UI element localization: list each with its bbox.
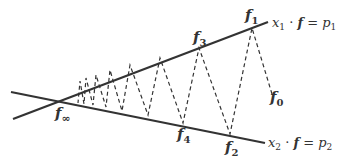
label-f0: f0 — [269, 88, 283, 108]
upper-constraint-line — [13, 22, 268, 119]
label-f-infinity: f∞ — [54, 104, 71, 125]
lower-equation-label: x2 · f = p2 — [268, 135, 332, 152]
upper-equation-label: x1 · f = p1 — [272, 15, 336, 32]
lower-constraint-line — [11, 92, 265, 143]
label-f3: f3 — [192, 28, 206, 48]
diagram-canvas: f∞ f1 f3 f0 f4 f2 x1 · f = p1 x2 · f = p… — [0, 0, 342, 159]
label-f2: f2 — [224, 138, 238, 158]
label-f1: f1 — [244, 6, 258, 26]
iteration-path — [78, 28, 272, 134]
